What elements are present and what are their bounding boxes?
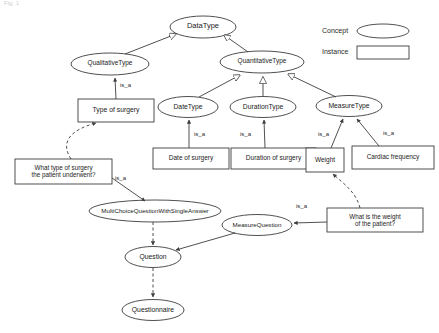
instance-shape-cardiac-frequency[interactable] xyxy=(352,146,434,169)
concept-shape-measurequestion[interactable] xyxy=(222,215,292,236)
legend-concept-icon xyxy=(357,24,409,38)
concept-shape-questionnaire[interactable] xyxy=(122,300,184,321)
instance-shape-what-is-the-weight[interactable] xyxy=(327,208,423,232)
edge-what-type-of-surgery-is-a-multichoice xyxy=(112,178,145,201)
concept-shape-question[interactable] xyxy=(125,247,181,268)
instance-shape-duration-of-surgery[interactable] xyxy=(231,148,316,169)
edge-what-type-of-surgery-to-type-of-surgery xyxy=(67,123,96,159)
instance-shape-what-type-of-surgery[interactable] xyxy=(15,159,112,184)
legend-label-concept: Concept xyxy=(322,27,348,34)
diagram-graphics xyxy=(0,0,439,333)
concept-shape-durationtype[interactable] xyxy=(230,97,296,118)
edge-measuretype-to-quantitativetype xyxy=(288,74,336,97)
edge-type-of-surgery-is-a-qualitativetype xyxy=(115,78,116,99)
edge-label-is-a-cardiac-frequency: is_a xyxy=(383,130,394,136)
edge-cardiac-frequency-is-a-measuretype xyxy=(357,119,379,146)
concept-shape-multichoicequestionwithsingleanswer[interactable] xyxy=(89,200,221,222)
edge-duration-of-surgery-is-a-durationtype xyxy=(264,120,265,148)
edge-label-is-a-weight: is_a xyxy=(318,131,329,137)
edge-label-is-a-what-is-the-weight: is_a xyxy=(296,203,307,209)
edge-weight-is-a-measuretype xyxy=(331,119,343,148)
edge-measurequestion-to-question xyxy=(176,233,235,250)
concept-shape-datatype[interactable] xyxy=(170,16,236,38)
diagram-canvas: Fig. 1 xyxy=(0,0,439,333)
edge-label-is-a-date-of-surgery: is_a xyxy=(194,131,205,137)
edge-qualitativetype-to-datatype xyxy=(125,34,176,54)
edge-what-is-the-weight-to-weight xyxy=(333,174,360,208)
instance-shape-weight[interactable] xyxy=(306,148,344,172)
edge-quantitativetype-to-datatype xyxy=(224,35,248,52)
concept-shape-qualitativetype[interactable] xyxy=(71,53,149,75)
concept-shape-quantitativetype[interactable] xyxy=(220,51,304,73)
edge-label-is-a-type-of-surgery: is_a xyxy=(120,82,131,88)
edge-what-is-the-weight-is-a-measurequestion xyxy=(294,222,327,223)
instance-shape-type-of-surgery[interactable] xyxy=(78,99,154,122)
edge-datetype-to-quantitativetype xyxy=(199,75,240,97)
concept-shape-datetype[interactable] xyxy=(158,97,218,118)
edge-label-is-a-what-type-of-surgery: is_a xyxy=(115,175,126,181)
legend-instance-icon xyxy=(357,46,409,59)
instance-shape-date-of-surgery[interactable] xyxy=(153,148,229,169)
edge-label-is-a-duration-of-surgery: is_a xyxy=(240,131,251,137)
concept-shape-measuretype[interactable] xyxy=(316,96,382,117)
legend-label-instance: Instance xyxy=(322,48,348,55)
